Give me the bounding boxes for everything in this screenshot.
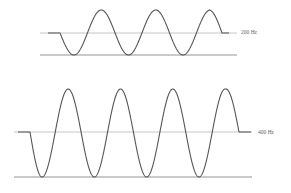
waveform-200hz — [40, 10, 237, 55]
sine-wave-400hz — [18, 89, 251, 177]
frequency-label-200hz: 200 Hz — [241, 30, 257, 36]
frequency-label-400hz: 400 Hz — [258, 130, 274, 136]
sine-wave-200hz — [48, 10, 229, 55]
waveform-400hz — [14, 89, 252, 177]
